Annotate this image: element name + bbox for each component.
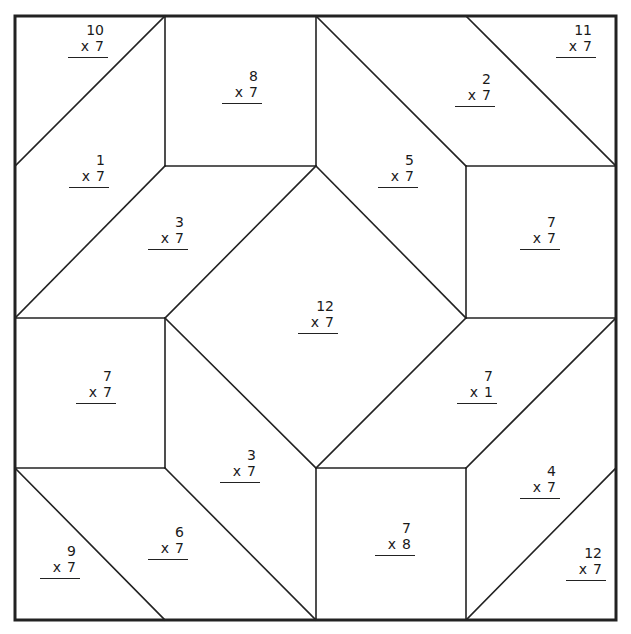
times-sign: x [470,384,478,400]
times-sign: x [569,38,577,54]
multiplier: 7 [103,384,112,400]
multiplier-row[interactable]: x7 [556,38,596,58]
multiplicand: 7 [375,520,415,536]
multiplicand: 11 [556,22,596,38]
multiplier: 7 [96,168,105,184]
multiplier: 7 [67,559,76,575]
times-sign: x [161,230,169,246]
multiplier-row[interactable]: x7 [220,463,260,483]
times-sign: x [391,168,399,184]
multiplier: 7 [547,230,556,246]
times-sign: x [89,384,97,400]
multiplication-problem: 1x7 [69,152,109,188]
multiplication-problem: 8x7 [222,68,262,104]
multiplicand: 7 [76,368,116,384]
multiplication-problem: 5x7 [378,152,418,188]
multiplication-problem: 7x7 [76,368,116,404]
multiplier-row[interactable]: x7 [40,559,80,579]
times-sign: x [533,479,541,495]
multiplicand: 5 [378,152,418,168]
multiplier: 7 [482,87,491,103]
multiplication-problem: 9x7 [40,543,80,579]
multiplier-row[interactable]: x7 [298,314,338,334]
multiplier-row[interactable]: x7 [378,168,418,188]
times-sign: x [233,463,241,479]
multiplier: 7 [175,230,184,246]
multiplier: 7 [325,314,334,330]
multiplier-row[interactable]: x1 [457,384,497,404]
multiplicand: 1 [69,152,109,168]
multiplier: 7 [593,561,602,577]
multiplier-row[interactable]: x7 [69,168,109,188]
multiplier-row[interactable]: x7 [76,384,116,404]
multiplication-problem: 4x7 [520,463,560,499]
multiplier: 7 [247,463,256,479]
multiplier-row[interactable]: x7 [148,540,188,560]
multiplicand: 6 [148,524,188,540]
times-sign: x [579,561,587,577]
times-sign: x [311,314,319,330]
multiplication-problem: 3x7 [220,447,260,483]
multiplier-row[interactable]: x7 [455,87,495,107]
multiplication-problem: 7x8 [375,520,415,556]
multiplier: 1 [484,384,493,400]
times-sign: x [82,168,90,184]
multiplier: 7 [405,168,414,184]
multiplier-row[interactable]: x7 [68,38,108,58]
multiplicand: 7 [520,214,560,230]
times-sign: x [388,536,396,552]
times-sign: x [533,230,541,246]
multiplier: 7 [95,38,104,54]
multiplication-problem: 7x1 [457,368,497,404]
multiplicand: 8 [222,68,262,84]
multiplicand: 3 [220,447,260,463]
multiplier-row[interactable]: x8 [375,536,415,556]
multiplicand: 7 [457,368,497,384]
times-sign: x [235,84,243,100]
multiplier: 7 [583,38,592,54]
times-sign: x [468,87,476,103]
multiplication-problem: 6x7 [148,524,188,560]
multiplicand: 9 [40,543,80,559]
multiplicand: 2 [455,71,495,87]
times-sign: x [53,559,61,575]
multiplier-row[interactable]: x7 [520,479,560,499]
multiplicand: 3 [148,214,188,230]
multiplier: 7 [249,84,258,100]
multiplication-problem: 7x7 [520,214,560,250]
times-sign: x [81,38,89,54]
multiplicand: 12 [566,545,606,561]
multiplication-problem: 10x7 [68,22,108,58]
multiplication-problem: 2x7 [455,71,495,107]
multiplier-row[interactable]: x7 [566,561,606,581]
multiplicand: 10 [68,22,108,38]
times-sign: x [161,540,169,556]
multiplier-row[interactable]: x7 [148,230,188,250]
multiplier-row[interactable]: x7 [222,84,262,104]
multiplicand: 12 [298,298,338,314]
multiplicand: 4 [520,463,560,479]
multiplication-problem: 12x7 [566,545,606,581]
multiplication-problem: 11x7 [556,22,596,58]
multiplier: 7 [547,479,556,495]
multiplier: 7 [175,540,184,556]
multiplication-problem: 12x7 [298,298,338,334]
multiplier-row[interactable]: x7 [520,230,560,250]
multiplier: 8 [402,536,411,552]
multiplication-problem: 3x7 [148,214,188,250]
